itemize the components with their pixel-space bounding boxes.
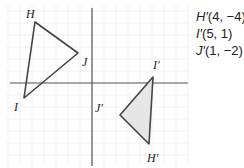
image-coordinates-list: H′(4, −4) I′(5, 1) J′(1, −2) (196, 8, 244, 59)
coordinate-i-prime: I′(5, 1) (196, 25, 244, 42)
coordinate-h-prime: H′(4, −4) (196, 8, 244, 25)
coordinate-j-prime: J′(1, −2) (196, 42, 244, 59)
vertex-value: (4, −4) (208, 9, 244, 24)
vertex-value: (5, 1) (202, 26, 232, 41)
vertex-labels: HIJH′I′J′ (13, 7, 160, 165)
vertex-label: I′ (152, 58, 160, 72)
vertex-value: (1, −2) (205, 43, 243, 58)
vertex-name: J′ (196, 43, 205, 58)
vertex-name: H′ (196, 9, 208, 24)
vertex-label: J′ (95, 101, 103, 115)
vertex-label: J (82, 55, 88, 69)
vertex-label: H′ (146, 151, 159, 165)
image-triangle-hij-prime (120, 77, 153, 144)
vertex-label: H (25, 7, 36, 21)
